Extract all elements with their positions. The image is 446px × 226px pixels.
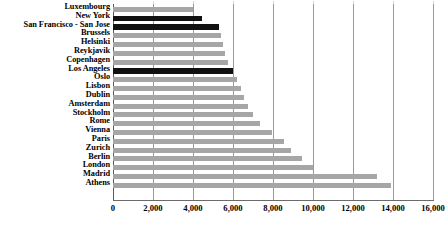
x-tick-label: 8,000: [263, 203, 282, 213]
bar: [113, 42, 223, 47]
bar: [113, 139, 284, 144]
bar: [113, 7, 193, 12]
gridline-16000: [433, 4, 434, 200]
x-tick-label: 0: [111, 203, 115, 213]
bar: [113, 33, 221, 38]
bar: [113, 121, 260, 126]
bar-chart: LuxembourgNew YorkSan Francisco - San Jo…: [0, 0, 446, 226]
x-tick-label: 6,000: [223, 203, 242, 213]
bar: [113, 24, 219, 29]
category-axis-labels: LuxembourgNew YorkSan Francisco - San Jo…: [0, 0, 112, 200]
bar: [113, 148, 291, 153]
bar: [113, 130, 272, 135]
x-tick-label: 14,000: [381, 203, 405, 213]
bar: [113, 16, 202, 21]
x-tick-label: 2,000: [143, 203, 162, 213]
bar-series: [113, 4, 433, 200]
category-label: Athens: [85, 179, 110, 188]
bar: [113, 77, 237, 82]
x-tick-label: 16,000: [421, 203, 445, 213]
bar: [113, 104, 248, 109]
bar: [113, 51, 225, 56]
bar: [113, 183, 391, 188]
x-tick-label: 12,000: [341, 203, 365, 213]
plot-area: [113, 4, 433, 200]
bar: [113, 156, 302, 161]
x-axis-line: [113, 200, 434, 201]
bar: [113, 112, 253, 117]
x-axis-tick-labels: 02,0004,0006,0008,00010,00012,00014,0001…: [113, 203, 434, 221]
bar: [113, 60, 228, 65]
bar: [113, 165, 313, 170]
bar: [113, 86, 241, 91]
x-tick-label: 10,000: [301, 203, 325, 213]
x-tick-label: 4,000: [183, 203, 202, 213]
bar: [113, 174, 377, 179]
bar: [113, 95, 244, 100]
bar: [113, 68, 233, 73]
